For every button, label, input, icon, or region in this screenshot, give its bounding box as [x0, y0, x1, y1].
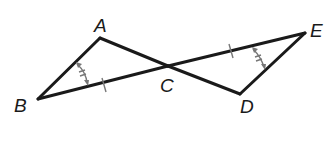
label-e: E	[310, 20, 323, 41]
label-c: C	[160, 75, 174, 96]
segment-ac	[100, 38, 168, 66]
angle-mark-e	[252, 47, 266, 70]
segment-cd	[168, 66, 240, 94]
segment-ce	[168, 33, 305, 66]
label-a: A	[93, 15, 107, 36]
angle-mark-b	[76, 62, 89, 86]
label-d: D	[240, 96, 254, 117]
geometry-diagram: A B C D E	[0, 0, 333, 163]
label-b: B	[14, 95, 27, 116]
tick-mark-bc	[102, 78, 106, 92]
